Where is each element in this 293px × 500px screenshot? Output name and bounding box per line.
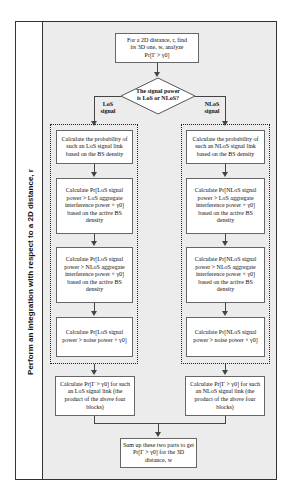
los-box-4: Calculate Pr[LoS signal power > noise po… — [56, 317, 133, 357]
los-branch-label: LoS signal — [96, 101, 120, 115]
connector — [225, 96, 226, 124]
los-box-3: Calculate Pr[LoS signal power > NLoS agg… — [56, 247, 133, 303]
nlos-branch-label: NLoS signal — [200, 101, 224, 115]
start-line3: Pr[Γ > γ0] — [118, 52, 196, 60]
connector — [94, 423, 226, 424]
connector — [225, 416, 226, 423]
start-box: For a 2D distance, r, find its 3D one, w… — [115, 33, 199, 63]
connector — [94, 416, 95, 423]
start-line2: its 3D one, w, analyze — [118, 44, 196, 52]
side-label: Perform an integration with respect to a… — [26, 169, 35, 375]
arrow-icon — [222, 241, 228, 246]
connector — [195, 96, 225, 97]
connector — [94, 96, 95, 124]
start-line1: For a 2D distance, r, find — [118, 37, 196, 45]
arrow-icon — [155, 432, 161, 437]
decision-line1: The signal power — [130, 88, 186, 95]
los-box-2: Calculate Pr[LoS signal power > LoS aggr… — [56, 178, 133, 234]
nlos-box-1: Calculate the probability of such an NLo… — [186, 130, 265, 164]
nlos-box-4: Calculate Pr[NLoS signal power > noise p… — [186, 317, 265, 357]
arrow-icon — [222, 370, 228, 375]
decision-line2: is LoS or NLoS? — [130, 95, 186, 102]
arrow-icon — [222, 172, 228, 177]
final-box: Sum up these two parts to get Pr[Γ > γ0]… — [120, 438, 197, 468]
nlos-box-3: Calculate Pr[NLoS signal power > NLoS ag… — [186, 247, 265, 303]
connector — [94, 96, 121, 97]
side-panel: Perform an integration with respect to a… — [15, 21, 43, 480]
arrow-icon — [91, 241, 97, 246]
arrow-icon — [91, 370, 97, 375]
nlos-result-box: Calculate Pr[Γ > γ0] for such an NLoS si… — [185, 376, 265, 416]
los-box-1: Calculate the probability of such an LoS… — [56, 130, 133, 164]
arrow-icon — [91, 311, 97, 316]
nlos-box-2: Calculate Pr[NLoS signal power > LoS agg… — [186, 178, 265, 234]
los-result-box: Calculate Pr[Γ > γ0] for such an LoS sig… — [55, 376, 135, 416]
arrow-icon — [222, 311, 228, 316]
arrow-icon — [91, 172, 97, 177]
decision-text: The signal power is LoS or NLoS? — [130, 88, 186, 102]
